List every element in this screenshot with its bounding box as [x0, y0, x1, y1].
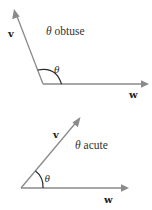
caption-text: acute: [81, 139, 108, 151]
angle-theta-label: θ: [54, 63, 60, 75]
vector-v-line: [17, 15, 44, 84]
arrowhead-icon: [121, 184, 129, 192]
obtuse-caption: θ obtuse: [46, 25, 85, 37]
arrowhead-icon: [12, 9, 19, 19]
vector-w-label: w: [103, 194, 113, 205]
arrowhead-icon: [141, 80, 149, 88]
obtuse-angle-figure: θ v w θ obtuse: [7, 9, 149, 100]
acute-angle-figure: θ v w θ acute: [21, 117, 129, 205]
vector-v-acute: [21, 117, 81, 188]
vector-w-label: w: [128, 89, 138, 100]
vector-w-acute: [21, 184, 129, 192]
caption-text: obtuse: [52, 25, 85, 37]
vector-v-label: v: [52, 129, 60, 140]
angle-arc: [36, 171, 44, 188]
vector-angle-diagram: θ v w θ obtuse θ v w θ acute: [0, 0, 152, 210]
vector-v-label: v: [7, 28, 15, 39]
vector-v-obtuse: [12, 9, 43, 84]
vector-w-obtuse: [43, 80, 149, 88]
angle-theta-label: θ: [45, 172, 51, 184]
acute-caption: θ acute: [75, 139, 108, 151]
